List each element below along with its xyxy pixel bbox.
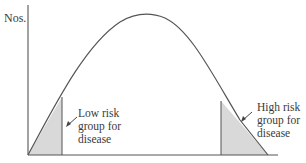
high-risk-label-line-1: High risk bbox=[257, 101, 300, 114]
low-risk-label-line-2: group for bbox=[78, 120, 121, 133]
distribution-diagram: Nos. Low risk group for disease High ris… bbox=[0, 0, 306, 163]
y-axis-label: Nos. bbox=[4, 11, 26, 25]
low-risk-label-line-1: Low risk bbox=[78, 107, 119, 119]
high-risk-arrow-icon bbox=[241, 112, 252, 122]
high-risk-label: High risk group for disease bbox=[257, 101, 303, 139]
low-risk-label: Low risk group for disease bbox=[78, 107, 124, 145]
low-risk-arrow-icon bbox=[66, 117, 77, 127]
high-risk-label-line-3: disease bbox=[257, 127, 290, 139]
low-risk-label-line-3: disease bbox=[78, 133, 111, 145]
high-risk-label-line-2: group for bbox=[257, 114, 300, 127]
